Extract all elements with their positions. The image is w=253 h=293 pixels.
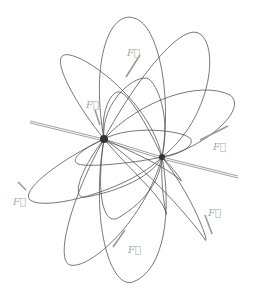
force-label: F⃗ [12,196,26,207]
force-arrow-right [200,126,228,140]
charge-1 [100,135,108,143]
field-diagram: F⃗ F⃗ F⃗ F⃗ F⃗ F⃗ [0,0,253,293]
force-arrow-top [126,55,140,77]
force-arrow-left [18,182,26,190]
field-lines-svg: F⃗ F⃗ F⃗ F⃗ F⃗ F⃗ [0,0,253,293]
force-label: F⃗ [212,141,226,152]
force-arrow-upper-left [95,110,100,125]
force-label: F⃗ [85,99,99,110]
charge-2 [159,154,165,160]
force-label: F⃗ [127,244,141,255]
force-label: F⃗ [207,207,221,218]
force-labels: F⃗ F⃗ F⃗ F⃗ F⃗ F⃗ [12,47,226,255]
force-vectors [18,55,228,247]
force-label: F⃗ [126,47,140,58]
axis-line [30,121,238,178]
